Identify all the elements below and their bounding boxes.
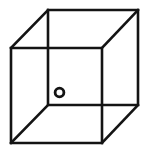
circle-marker-icon [55, 88, 64, 97]
cube-drawing-canvas [0, 0, 150, 153]
edge-top-left-connector [11, 10, 48, 48]
necker-cube-figure [0, 0, 150, 153]
edge-bottom-left-connector [11, 105, 48, 143]
edge-top-right-connector [102, 10, 138, 48]
edge-bottom-right-connector [102, 105, 138, 143]
